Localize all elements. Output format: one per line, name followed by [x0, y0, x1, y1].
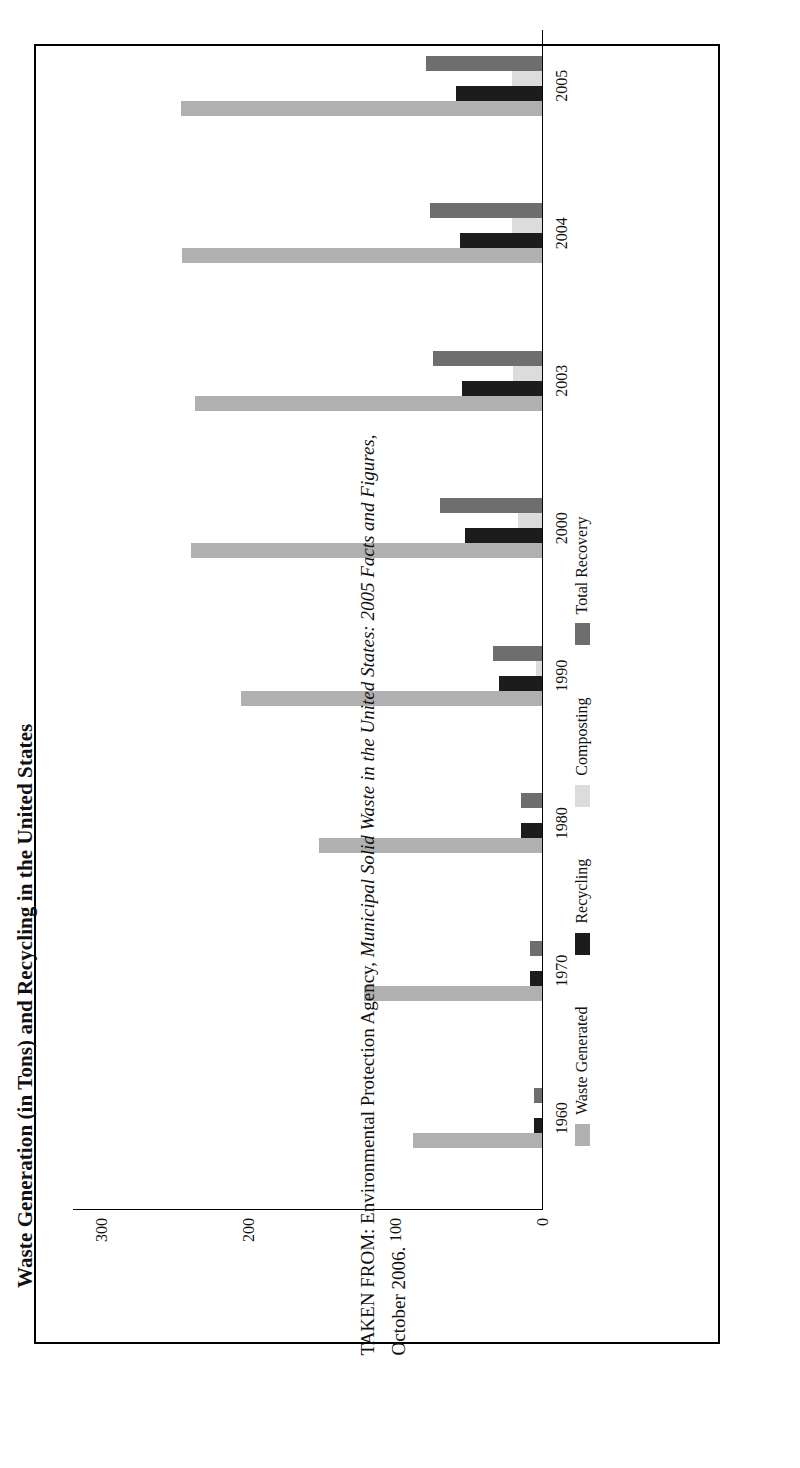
value-axis-tick-label: 300 — [94, 1218, 110, 1242]
category-axis-tick-label: 2003 — [553, 365, 571, 397]
bar-composting-2005 — [512, 71, 542, 86]
value-axis-line — [73, 1209, 543, 1210]
bar-recovery-1980 — [521, 793, 542, 808]
legend-swatch-icon-recycling — [575, 933, 590, 955]
plot-area: 0100200300 19601970198019902000200320042… — [73, 30, 543, 1210]
figure-caption: TAKEN FROM: Environmental Protection Age… — [353, 165, 414, 1355]
category-axis-tick-label: 1980 — [553, 807, 571, 839]
category-axis-tick-label: 2004 — [553, 217, 571, 249]
bar-recycling-1960 — [534, 1118, 542, 1133]
page-title: Waste Generation (in Tons) and Recycling… — [13, 724, 38, 1288]
bar-recycling-1970 — [530, 971, 542, 986]
category-axis-line — [542, 30, 543, 1210]
value-axis-tick-label: 0 — [535, 1218, 551, 1226]
category-axis-tick-label: 1960 — [553, 1102, 571, 1134]
legend-item-recycling: Recycling — [573, 859, 591, 955]
bar-recycling-2005 — [456, 86, 542, 101]
bar-recovery-2004 — [430, 203, 542, 218]
legend-label: Total Recovery — [573, 517, 591, 615]
bar-recycling-1980 — [521, 823, 542, 838]
caption-line-2: October 2006. — [384, 165, 413, 1355]
caption-source-title: Municipal Solid Waste in the United Stat… — [357, 439, 378, 957]
bar-recycling-1990 — [499, 676, 542, 691]
caption-prefix: TAKEN FROM: Environmental Protection Age… — [357, 957, 378, 1355]
legend-label: Waste Generated — [573, 1007, 591, 1115]
value-axis-tick-label: 200 — [241, 1218, 257, 1242]
bar-composting-2003 — [513, 366, 542, 381]
bar-waste-1960 — [413, 1133, 542, 1148]
bar-group — [181, 56, 542, 116]
legend-swatch-icon-waste — [575, 1124, 590, 1146]
bar-composting-2000 — [518, 513, 542, 528]
figure-page: Waste Generation (in Tons) and Recycling… — [0, 0, 800, 1468]
category-axis-tick-label: 2000 — [553, 512, 571, 544]
bar-recovery-1960 — [534, 1088, 542, 1103]
category-axis-tick-label: 1990 — [553, 660, 571, 692]
bar-composting-1990 — [536, 661, 542, 676]
legend-item-recovery: Total Recovery — [573, 517, 591, 646]
bar-recovery-2003 — [433, 351, 542, 366]
legend-item-composting: Composting — [573, 697, 591, 806]
legend-swatch-icon-recovery — [575, 623, 590, 645]
bar-composting-2004 — [512, 218, 542, 233]
bar-recovery-2005 — [426, 56, 542, 71]
bar-recycling-2000 — [465, 528, 542, 543]
bar-recovery-2000 — [440, 498, 542, 513]
bar-recycling-2003 — [462, 381, 542, 396]
legend-label: Composting — [573, 697, 591, 775]
bar-recovery-1990 — [493, 646, 542, 661]
bar-waste-2005 — [181, 101, 542, 116]
bar-recovery-1970 — [530, 941, 542, 956]
category-axis-tick-label: 1970 — [553, 955, 571, 987]
bar-recycling-2004 — [460, 233, 542, 248]
bar-group — [413, 1088, 542, 1148]
legend-swatch-icon-composting — [575, 785, 590, 807]
chart-legend: Waste GeneratedRecyclingCompostingTotal … — [573, 517, 591, 1147]
rotated-chart-stage: Waste Generation (in Tons) and Recycling… — [7, 6, 679, 1296]
category-axis-tick-label: 2005 — [553, 70, 571, 102]
legend-label: Recycling — [573, 859, 591, 924]
legend-item-waste: Waste Generated — [573, 1007, 591, 1146]
caption-suffix: , — [357, 435, 378, 440]
